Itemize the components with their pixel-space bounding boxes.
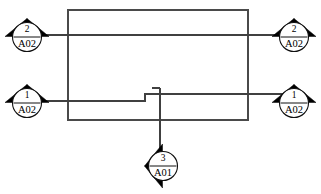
tag-top-right[interactable]: 2 A02 — [272, 19, 316, 52]
tag-bottom-left[interactable]: 1 A02 — [5, 85, 49, 118]
panel-outline — [68, 10, 248, 120]
tag-number: 1 — [292, 90, 297, 100]
tag-top-left[interactable]: 2 A02 — [5, 19, 49, 52]
tag-number: 3 — [161, 153, 166, 163]
tag-number: 2 — [25, 24, 30, 34]
schematic-diagram: 2 A02 2 A02 1 A02 1 A02 — [0, 0, 321, 194]
tag-sheet: A02 — [18, 38, 36, 49]
tag-sheet: A02 — [285, 104, 303, 115]
tag-bottom-right[interactable]: 1 A02 — [272, 85, 316, 118]
tag-sheet: A02 — [285, 38, 303, 49]
schematic-canvas: 2 A02 2 A02 1 A02 1 A02 — [0, 0, 321, 194]
tag-bottom-center[interactable]: 3 A01 — [145, 144, 178, 188]
tag-sheet: A02 — [18, 104, 36, 115]
tag-number: 1 — [25, 90, 30, 100]
tag-sheet: A01 — [154, 167, 172, 178]
tag-number: 2 — [292, 24, 297, 34]
